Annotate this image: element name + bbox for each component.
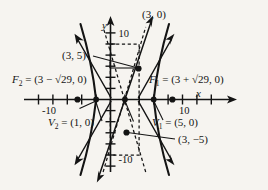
hyperbola-figure: y x 10 -10 -10 10 F2 = (3 − √29, 0) F1 =… — [0, 0, 268, 190]
x-tick-label-10: 10 — [179, 105, 190, 116]
y-tick-label-neg10: -10 — [119, 154, 133, 165]
leader-vertex-left — [96, 102, 102, 122]
center-dot — [122, 97, 128, 103]
y-tick-label-10: 10 — [119, 28, 130, 39]
x-axis-label: x — [195, 87, 201, 99]
focus-right-label: F1 = (3 + √29, 0) — [148, 73, 224, 88]
vertex-left-value: = (1, 0) — [58, 116, 94, 129]
figure-canvas: y x 10 -10 -10 10 F2 = (3 − √29, 0) F1 =… — [0, 0, 268, 190]
point-upper-label: (3, 5) — [62, 49, 86, 62]
vertex-right-value: = (5, 0) — [162, 116, 198, 129]
vertex-left-label: V2 = (1, 0) — [48, 116, 94, 131]
point-lower-label: (3, −5) — [178, 133, 208, 146]
y-axis-label: y — [101, 19, 107, 31]
x-tick-label-neg10: -10 — [42, 105, 56, 116]
leader-center — [125, 102, 133, 122]
point-top-label: (3, 0) — [142, 8, 166, 21]
focus-left-dot — [74, 96, 80, 102]
focus-left-value: = (3 − √29, 0) — [22, 73, 87, 86]
vertex-right-dot — [151, 97, 157, 103]
focus-right-dot — [169, 96, 175, 102]
vertex-right-label: V1 = (5, 0) — [152, 116, 198, 131]
axis-group — [24, 16, 237, 172]
focus-left-label: F2 = (3 − √29, 0) — [11, 73, 87, 88]
focus-right-value: = (3 + √29, 0) — [159, 73, 224, 86]
